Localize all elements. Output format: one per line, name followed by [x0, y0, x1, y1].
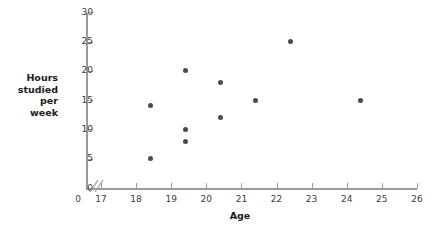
y-tick-label-wrap: 15 [58, 96, 93, 105]
x-tick-mark [136, 183, 137, 189]
y-tick-label: 5 [71, 154, 93, 163]
y-tick-label-wrap: 10 [58, 125, 93, 134]
y-axis-title: Hoursstudiedperweek [0, 72, 58, 118]
x-tick-label: 19 [159, 194, 183, 204]
x-tick-label: 22 [265, 194, 289, 204]
data-point [218, 80, 223, 85]
x-axis-title: Age [200, 210, 280, 221]
data-point [148, 103, 153, 108]
data-point [183, 139, 188, 144]
x-tick-mark [171, 183, 172, 189]
x-tick-label: 17 [89, 194, 113, 204]
data-point [183, 127, 188, 132]
x-tick-label: 20 [194, 194, 218, 204]
y-tick-label-wrap: 25 [58, 37, 93, 46]
y-tick-label-wrap: 30 [58, 8, 93, 17]
y-tick-label: 20 [71, 66, 93, 75]
axis-break-icon [88, 178, 106, 194]
y-tick-label: 15 [71, 96, 93, 105]
x-tick-label: 24 [335, 194, 359, 204]
y-tick-label: 25 [71, 37, 93, 46]
origin-label: 0 [68, 194, 88, 204]
x-tick-mark [206, 183, 207, 189]
scatter-plot-figure: Hoursstudiedperweek 051015202530 1718192… [0, 0, 437, 232]
data-point [183, 68, 188, 73]
x-tick-label: 23 [300, 194, 324, 204]
data-point [148, 156, 153, 161]
x-tick-mark [417, 183, 418, 189]
data-point [253, 98, 258, 103]
data-point [358, 98, 363, 103]
x-tick-label: 18 [124, 194, 148, 204]
x-tick-mark [277, 183, 278, 189]
x-tick-mark [241, 183, 242, 189]
x-tick-label: 21 [229, 194, 253, 204]
y-axis-title-line-3: week [0, 107, 58, 119]
x-tick-mark [312, 183, 313, 189]
y-axis-title-line-0: Hours [0, 72, 58, 84]
y-tick-label: 30 [71, 8, 93, 17]
x-tick-mark [382, 183, 383, 189]
x-tick-mark [347, 183, 348, 189]
data-point [288, 39, 293, 44]
x-tick-label: 26 [405, 194, 429, 204]
y-tick-label-wrap: 20 [58, 66, 93, 75]
data-point [218, 115, 223, 120]
y-tick-label-wrap: 5 [58, 154, 93, 163]
x-tick-label: 25 [370, 194, 394, 204]
y-axis-title-line-2: per [0, 95, 58, 107]
y-axis-title-line-1: studied [0, 84, 58, 96]
y-tick-label: 10 [71, 125, 93, 134]
